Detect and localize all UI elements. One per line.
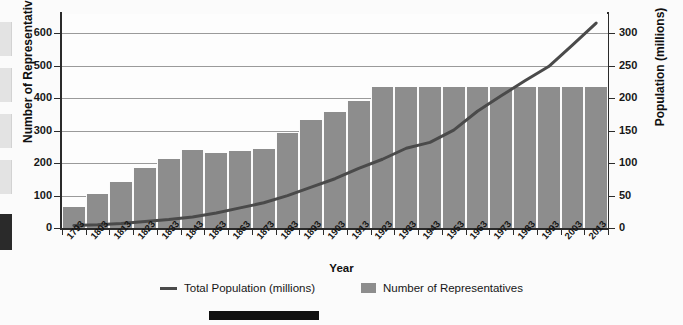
legend-item-number-of-representatives: Number of Representatives (361, 282, 523, 294)
y-axis-left-tick (54, 163, 60, 164)
x-axis-tick (252, 230, 253, 235)
x-axis-tick (513, 230, 514, 235)
y-axis-right-tick (609, 131, 615, 132)
y-axis-left-tick-label: 400 (12, 91, 52, 103)
y-axis-left-tick-label: 100 (12, 189, 52, 201)
x-axis-tick (228, 230, 229, 235)
y-axis-right-tick-label: 50 (619, 189, 659, 201)
y-axis-left-tick (54, 228, 60, 229)
y-axis-right-tick-label: 250 (619, 59, 659, 71)
x-axis-tick (608, 230, 609, 235)
x-axis-tick (537, 230, 538, 235)
legend-label: Total Population (millions) (184, 282, 315, 294)
x-axis-tick (133, 230, 134, 235)
x-axis-tick (86, 230, 87, 235)
y-axis-right-tick (609, 163, 615, 164)
chart-figure: Number of Representatives Population (mi… (0, 0, 683, 325)
chart-legend: Total Population (millions) Number of Re… (0, 282, 683, 294)
x-axis-tick (157, 230, 158, 235)
y-axis-left-tick-label: 0 (12, 221, 52, 233)
line-marker-icon (160, 287, 177, 290)
y-axis-right-tick-label: 0 (619, 221, 659, 233)
y-axis-right-tick-label: 100 (619, 156, 659, 168)
x-axis-tick (299, 230, 300, 235)
y-axis-right-tick-label: 200 (619, 91, 659, 103)
x-axis-tick (418, 230, 419, 235)
y-axis-left-tick-label: 600 (12, 26, 52, 38)
x-axis-tick (276, 230, 277, 235)
box-marker-icon (361, 283, 376, 293)
x-axis-tick (347, 230, 348, 235)
legend-label: Number of Representatives (383, 282, 523, 294)
y-axis-left-tick (54, 196, 60, 197)
x-axis-tick (584, 230, 585, 235)
x-axis-title: Year (0, 262, 683, 274)
page-edge-black-bar (209, 311, 319, 320)
y-axis-right-tick (609, 196, 615, 197)
y-axis-left-tick-label: 500 (12, 59, 52, 71)
x-axis-tick (442, 230, 443, 235)
x-axis-tick (204, 230, 205, 235)
y-axis-right-tick-label: 300 (619, 26, 659, 38)
y-axis-left-tick (54, 66, 60, 67)
y-axis-right-title: Population (millions) (653, 0, 667, 162)
x-axis-tick (394, 230, 395, 235)
x-axis-tick (489, 230, 490, 235)
y-axis-left-tick-label: 300 (12, 124, 52, 136)
y-axis-right-tick-label: 150 (619, 124, 659, 136)
x-axis-tick (62, 230, 63, 235)
y-axis-left-tick (54, 98, 60, 99)
y-axis-right-tick (609, 33, 615, 34)
y-axis-left-tick (54, 33, 60, 34)
y-axis-right-tick (609, 66, 615, 67)
plot-area (62, 14, 608, 228)
legend-item-total-population: Total Population (millions) (160, 282, 315, 294)
y-axis-left-tick-label: 200 (12, 156, 52, 168)
y-axis-left-tick (54, 131, 60, 132)
x-axis-tick (181, 230, 182, 235)
y-axis-right-tick (609, 98, 615, 99)
population-line-series (62, 14, 608, 228)
x-axis-tick (323, 230, 324, 235)
y-axis-right-tick (609, 228, 615, 229)
